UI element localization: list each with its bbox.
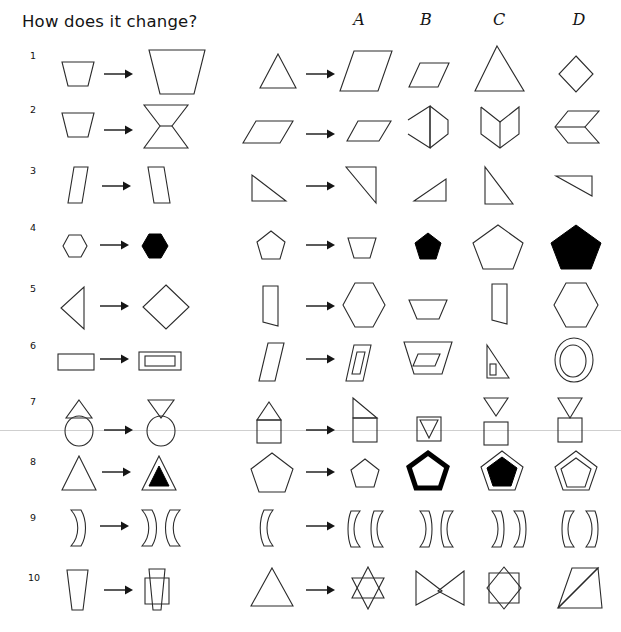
row-8-example-from <box>58 452 100 494</box>
row-2-example-from <box>58 108 98 142</box>
row-4-option-c[interactable] <box>470 222 526 272</box>
row-8-arrow-icon <box>102 466 132 478</box>
row-1-option-c[interactable] <box>472 44 528 94</box>
row-5-option-d[interactable] <box>550 280 602 330</box>
row-6-option-c[interactable] <box>482 342 512 382</box>
column-header-a: A <box>347 10 371 29</box>
row-10-option-b[interactable] <box>412 566 468 610</box>
worksheet-page: How does it change? A B C D 1 2 <box>0 0 621 632</box>
row-number-4: 4 <box>30 222 36 233</box>
row-1-option-d[interactable] <box>556 54 596 94</box>
row-7-example-from <box>60 396 100 448</box>
row-6-option-d[interactable] <box>550 336 598 384</box>
row-3-question-shape <box>248 172 290 204</box>
row-4-option-b[interactable] <box>412 230 444 262</box>
row-7-option-a[interactable] <box>348 394 384 446</box>
row-5-option-c[interactable] <box>486 280 516 328</box>
row-3-example-from <box>62 164 96 206</box>
row-3-example-to <box>142 164 178 206</box>
row-4-question-shape <box>254 228 288 262</box>
row-7-example-to <box>142 396 182 448</box>
row-3-arrow-icon <box>102 180 132 192</box>
row-8-option-a[interactable] <box>348 456 382 490</box>
row-2-option-a[interactable] <box>344 118 394 144</box>
row-1-arrow-icon-2 <box>306 68 336 80</box>
column-header-d: D <box>567 10 591 29</box>
row-4-option-a[interactable] <box>344 234 380 262</box>
row-9-arrow-icon <box>100 520 130 532</box>
row-10-option-c[interactable] <box>480 564 528 612</box>
row-5-example-to <box>139 282 193 332</box>
row-4-option-d[interactable] <box>548 222 604 272</box>
row-number-8: 8 <box>30 456 36 467</box>
row-number-9: 9 <box>30 512 36 523</box>
row-7-arrow-icon-2 <box>306 424 336 436</box>
row-1-option-b[interactable] <box>406 60 452 90</box>
row-2-arrow-icon <box>104 124 134 136</box>
row-6-example-to <box>136 348 184 374</box>
row-8-option-d[interactable] <box>552 448 600 494</box>
row-1-option-a[interactable] <box>336 48 396 94</box>
row-7-option-b[interactable] <box>412 412 446 446</box>
row-8-example-to <box>138 452 180 494</box>
row-number-2: 2 <box>30 104 36 115</box>
row-1-example-to <box>144 46 210 98</box>
row-7-arrow-icon <box>104 424 134 436</box>
row-5-example-from <box>58 284 90 332</box>
row-number-10: 10 <box>28 572 40 583</box>
row-5-option-a[interactable] <box>340 280 388 330</box>
row-10-example-to <box>140 566 176 616</box>
row-number-1: 1 <box>30 50 36 61</box>
row-3-option-d[interactable] <box>552 172 598 200</box>
row-1-arrow-icon <box>104 68 134 80</box>
row-10-example-from <box>62 566 94 614</box>
row-9-example-to <box>138 506 186 550</box>
row-9-option-a[interactable] <box>346 508 388 550</box>
row-3-option-a[interactable] <box>342 164 382 206</box>
row-4-arrow-icon <box>100 239 130 251</box>
row-4-arrow-icon-2 <box>306 239 336 251</box>
row-9-option-d[interactable] <box>560 508 602 550</box>
row-number-3: 3 <box>30 165 36 176</box>
row-7-option-c[interactable] <box>478 394 516 448</box>
row-2-example-to <box>140 102 192 152</box>
row-2-option-d[interactable] <box>552 108 602 148</box>
row-9-arrow-icon-2 <box>306 520 336 532</box>
row-6-question-shape <box>254 340 290 384</box>
row-6-option-b[interactable] <box>400 338 456 378</box>
row-8-arrow-icon-2 <box>306 466 336 478</box>
row-number-6: 6 <box>30 340 36 351</box>
column-header-b: B <box>414 10 438 29</box>
row-8-option-b[interactable] <box>404 448 452 494</box>
row-3-option-c[interactable] <box>480 164 518 208</box>
row-6-option-a[interactable] <box>342 342 376 384</box>
row-9-option-b[interactable] <box>416 508 458 550</box>
row-8-option-c[interactable] <box>478 448 526 494</box>
row-5-arrow-icon-2 <box>306 300 336 312</box>
row-3-option-b[interactable] <box>410 176 452 204</box>
column-header-c: C <box>487 10 511 29</box>
row-5-option-b[interactable] <box>406 296 450 322</box>
row-1-example-from <box>58 56 98 90</box>
row-10-option-d[interactable] <box>552 564 608 612</box>
row-10-arrow-icon <box>104 584 134 596</box>
row-7-question-shape <box>252 398 288 446</box>
row-number-5: 5 <box>30 283 36 294</box>
row-1-question-shape <box>258 52 298 90</box>
row-9-question-shape <box>256 506 280 550</box>
row-2-option-b[interactable] <box>406 104 450 150</box>
row-5-arrow-icon <box>100 300 130 312</box>
row-number-7: 7 <box>30 396 36 407</box>
row-4-example-to <box>139 231 171 261</box>
row-10-question-shape <box>246 564 298 610</box>
row-4-example-from <box>60 232 90 260</box>
row-10-arrow-icon-2 <box>306 584 336 596</box>
row-2-option-c[interactable] <box>478 104 522 150</box>
row-7-option-d[interactable] <box>552 394 590 448</box>
row-2-question-shape <box>240 118 296 146</box>
row-10-option-a[interactable] <box>346 564 390 612</box>
row-9-option-c[interactable] <box>488 508 530 550</box>
row-3-arrow-icon-2 <box>306 180 336 192</box>
row-6-arrow-icon-2 <box>306 353 336 365</box>
row-8-question-shape <box>248 450 296 496</box>
